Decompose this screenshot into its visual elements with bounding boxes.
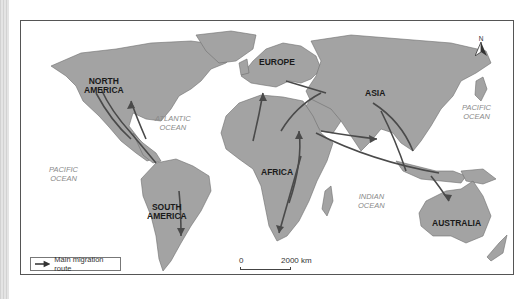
label-line: EUROPE bbox=[259, 58, 295, 67]
north-america-land bbox=[51, 41, 236, 161]
label-pacific-ocean-west: PACIFIC OCEAN bbox=[49, 165, 78, 183]
north-arrow: N bbox=[473, 35, 489, 61]
label-line: ATLANTIC bbox=[155, 114, 191, 123]
label-line: AMERICA bbox=[147, 212, 187, 221]
label-line: PACIFIC bbox=[462, 103, 491, 112]
new-zealand-land bbox=[487, 235, 507, 261]
legend-label: Main migration route bbox=[54, 255, 120, 273]
label-pacific-ocean-east: PACIFIC OCEAN bbox=[462, 103, 491, 121]
label-south-america: SOUTH AMERICA bbox=[147, 203, 187, 221]
label-line: AUSTRALIA bbox=[432, 219, 481, 228]
label-line: OCEAN bbox=[49, 174, 78, 183]
label-line: OCEAN bbox=[462, 112, 491, 121]
madagascar-land bbox=[322, 186, 333, 216]
scale-bar: 0 2000 km bbox=[239, 256, 329, 274]
arrow-right-icon bbox=[35, 260, 50, 268]
australia-land bbox=[419, 181, 491, 243]
north-label: N bbox=[473, 35, 489, 42]
north-arrow-icon bbox=[475, 42, 487, 56]
label-line: OCEAN bbox=[155, 123, 191, 132]
label-indian-ocean: INDIAN OCEAN bbox=[358, 192, 385, 210]
label-europe: EUROPE bbox=[259, 58, 295, 67]
label-line: AFRICA bbox=[261, 168, 293, 177]
label-atlantic-ocean: ATLANTIC OCEAN bbox=[155, 114, 191, 132]
label-north-america: NORTH AMERICA bbox=[84, 77, 124, 95]
page-edge-strip bbox=[0, 0, 9, 299]
label-line: INDIAN bbox=[358, 192, 385, 201]
label-line: PACIFIC bbox=[49, 165, 78, 174]
label-line: AMERICA bbox=[84, 86, 124, 95]
map-legend: Main migration route bbox=[30, 257, 121, 271]
label-africa: AFRICA bbox=[261, 168, 293, 177]
label-line: ASIA bbox=[365, 89, 385, 98]
label-australia: AUSTRALIA bbox=[432, 219, 481, 228]
japan-land bbox=[475, 77, 487, 101]
label-line: OCEAN bbox=[358, 201, 385, 210]
new-guinea-land bbox=[461, 169, 496, 184]
scale-zero-label: 0 bbox=[239, 256, 243, 265]
world-migration-map: NORTH AMERICA SOUTH AMERICA EUROPE AFRIC… bbox=[20, 20, 514, 275]
uk-land bbox=[239, 59, 249, 75]
scale-bar-line bbox=[240, 267, 291, 270]
label-asia: ASIA bbox=[365, 89, 385, 98]
scale-max-label: 2000 km bbox=[281, 256, 312, 265]
